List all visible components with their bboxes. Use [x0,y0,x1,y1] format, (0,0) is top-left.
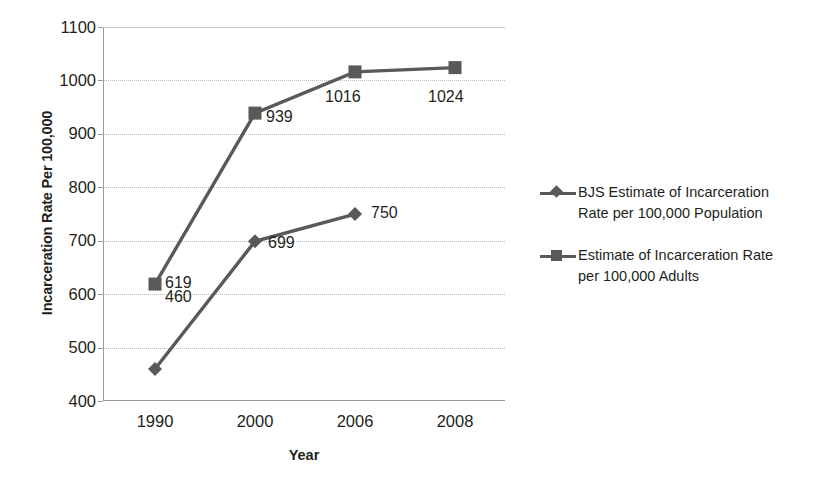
y-tick-400: 400 [38,393,96,410]
data-label-bjs-1990: 460 [165,289,192,305]
marker-adults-2006 [349,65,362,78]
x-axis-title: Year [103,447,505,463]
y-tickmark-400 [98,401,103,402]
x-tick-1990: 1990 [110,412,200,431]
plot-area: 460 699 750 619 939 1016 1024 [103,27,505,401]
x-tick-2008: 2008 [410,412,500,431]
data-label-adults-2006: 1016 [325,89,361,105]
data-label-adults-2000: 939 [266,109,293,125]
y-tick-500: 500 [38,339,96,356]
data-label-adults-1990: 619 [165,275,192,291]
data-label-bjs-2000: 699 [268,235,295,251]
marker-bjs-2006 [348,207,362,221]
diamond-marker-icon [538,183,578,203]
marker-adults-2000 [249,107,262,120]
legend-entry-bjs: BJS Estimate of Incarceration Rate per 1… [538,182,806,223]
legend-label-bjs: BJS Estimate of Incarceration Rate per 1… [578,182,792,223]
legend-label-adults: Estimate of Incarceration Rate per 100,0… [578,245,792,286]
x-tick-2006: 2006 [310,412,400,431]
x-tick-2000: 2000 [210,412,300,431]
series-graphics [103,27,505,401]
y-axis-tick-labels: 1100 1000 900 800 700 600 500 400 [34,0,96,479]
y-tick-900: 900 [38,125,96,142]
y-tick-700: 700 [38,232,96,249]
y-tick-800: 800 [38,179,96,196]
series-adults-line [155,68,455,285]
data-label-adults-2008: 1024 [428,89,464,105]
y-tick-1100: 1100 [38,19,96,36]
chart-legend: BJS Estimate of Incarceration Rate per 1… [538,182,806,308]
marker-adults-1990 [149,278,162,291]
x-axis-tick-labels: 1990 2000 2006 2008 [103,412,505,438]
data-label-bjs-2006: 750 [371,205,398,221]
y-tick-600: 600 [38,286,96,303]
legend-entry-adults: Estimate of Incarceration Rate per 100,0… [538,245,806,286]
square-marker-icon [538,246,578,266]
marker-adults-2008 [449,61,462,74]
line-chart: Incarceration Rate Per 100,000 1100 1000… [0,0,813,479]
y-tick-1000: 1000 [38,72,96,89]
